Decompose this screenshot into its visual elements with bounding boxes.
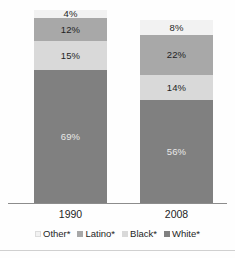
segment-value-label: 12% [61,25,80,35]
legend-label: White* [172,228,200,239]
legend-item-other[interactable]: Other* [35,228,70,239]
bar-segment-white-2008[interactable]: 56% [140,100,213,202]
legend-item-white[interactable]: White* [164,228,200,239]
bar-segment-latino-2008[interactable]: 22% [140,35,213,75]
category-label-1990: 1990 [34,208,107,220]
legend-label: Black* [130,228,157,239]
stacked-bar-chart: 4% 12% 15% 69% 8% 22% 14% 56% [0,0,235,258]
bar-2008[interactable]: 8% 22% 14% 56% [140,20,213,203]
legend-item-latino[interactable]: Latino* [77,228,115,239]
bar-segment-other-2008[interactable]: 8% [140,20,213,35]
bar-segment-latino-1990[interactable]: 12% [34,18,107,41]
segment-value-label: 69% [61,132,80,142]
bar-1990[interactable]: 4% 12% 15% 69% [34,10,107,203]
segment-value-label: 15% [61,51,80,61]
bar-segment-white-1990[interactable]: 69% [34,70,107,203]
chart-legend: Other* Latino* Black* White* [0,228,235,239]
legend-swatch-icon [164,231,170,237]
legend-label: Latino* [85,228,115,239]
page-divider [0,250,235,251]
legend-item-black[interactable]: Black* [122,228,157,239]
legend-swatch-icon [77,231,83,237]
bar-segment-black-2008[interactable]: 14% [140,75,213,101]
plot-area: 4% 12% 15% 69% 8% 22% 14% 56% [0,0,235,206]
segment-value-label: 22% [167,50,186,60]
legend-label: Other* [43,228,70,239]
x-axis-line [8,203,227,204]
legend-swatch-icon [35,231,41,237]
segment-value-label: 8% [170,23,184,33]
bar-segment-other-1990[interactable]: 4% [34,10,107,18]
segment-value-label: 56% [167,147,186,157]
segment-value-label: 14% [167,83,186,93]
bar-segment-black-1990[interactable]: 15% [34,41,107,70]
legend-swatch-icon [122,231,128,237]
category-axis-labels: 1990 2008 [0,208,235,226]
category-label-2008: 2008 [140,208,213,220]
